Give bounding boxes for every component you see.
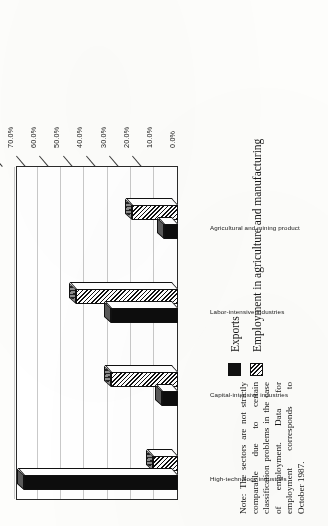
chart-plot-area: 0.0%10.0%20.0%30.0%40.0%50.0%60.0%70.0% … [6,154,204,500]
bar-side-face [105,366,178,373]
bar-exports [24,475,178,490]
legend-item-exports: Exports [228,139,241,376]
value-axis-tick-label: 20.0% [121,108,130,148]
bar-face [162,392,178,407]
legend-swatch-solid-icon [228,363,241,376]
legend-label-exports: Exports [229,316,241,352]
value-axis-tick-label: 10.0% [144,108,153,148]
chart-legend: Exports Employment in agriculture and ma… [228,139,272,376]
bar-face [164,225,178,240]
gridline [14,167,15,499]
bar-exports [164,225,178,240]
bar-exports [111,308,178,323]
value-axis-tick-label: 50.0% [52,108,61,148]
bar-face [111,308,178,323]
value-axis-tick-label: 30.0% [98,108,107,148]
bar-face [24,475,178,490]
value-axis-tick-label: 40.0% [75,108,84,148]
value-axis-tick-label: 60.0% [29,108,38,148]
bar-side-face [105,301,178,308]
bar-side-face [125,199,178,206]
bar-side-face [18,468,178,475]
bar-exports [162,392,178,407]
value-axis-tick-label: 70.0% [6,108,15,148]
legend-item-employment: Employment in agriculture and manufactur… [250,139,263,376]
bar-side-face [70,282,178,289]
legend-label-employment: Employment in agriculture and manufactur… [251,139,263,352]
bar-series-container [16,166,178,500]
legend-swatch-hatch-icon [250,363,263,376]
axis-tick-wedge [2,154,13,167]
figure-stage: 0.0%10.0%20.0%30.0%40.0%50.0%60.0%70.0% … [0,0,328,526]
figure-note: Note: The sectors are not strictly compa… [238,382,308,514]
value-axis-tick-label: 0.0% [168,108,177,148]
